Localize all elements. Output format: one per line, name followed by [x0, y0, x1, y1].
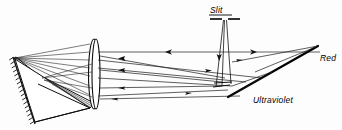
label-slit: Slit — [210, 5, 223, 15]
label-ultraviolet: Ultraviolet — [253, 95, 293, 105]
dispersed-spectrum — [228, 46, 318, 97]
slit-aperture — [210, 19, 240, 87]
label-slit-group: Slit — [209, 5, 232, 15]
collimating-lens — [89, 39, 101, 109]
ray-bundle-crossing — [98, 56, 262, 101]
optics-svg: Slit Red Ultraviolet — [0, 0, 342, 130]
label-red: Red — [320, 53, 336, 63]
spectrograph-diagram: Slit Red Ultraviolet — [0, 0, 342, 130]
